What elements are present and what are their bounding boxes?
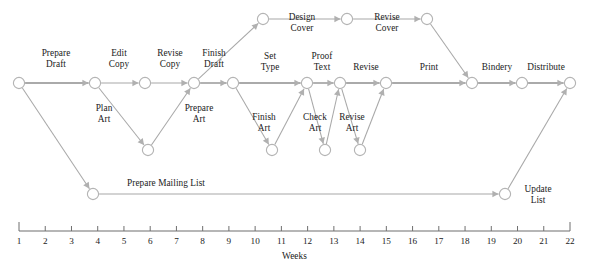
edge-n_settype-to-n_prooftext (239, 80, 301, 87)
axis-tick-label-1: 1 (8, 236, 30, 246)
arrow-head-icon (327, 80, 333, 87)
edge-n_revisecopy-to-n_finishdraft (151, 80, 188, 87)
arrow-head-icon (557, 80, 563, 87)
edge-n_revise-to-n_print (346, 80, 380, 87)
edge-n_revise-to-n_reviseart (342, 89, 360, 144)
axis-tick-label-5: 5 (113, 236, 135, 246)
node-n_update[interactable] (499, 188, 510, 199)
edge-n_finishdraft-to-n_settype (200, 80, 227, 87)
axis-tick-label-15: 15 (375, 236, 397, 246)
edge-n_distribute-to-n_end (528, 80, 564, 87)
node-n_designcover[interactable] (257, 13, 268, 24)
arrow-head-icon (132, 80, 138, 87)
arrow-head-icon (294, 80, 300, 87)
axis-tick-label-7: 7 (165, 236, 187, 246)
axis-tick-label-20: 20 (507, 236, 529, 246)
edge-n_start-to-n_editcopy (25, 80, 89, 87)
network-graphics (0, 0, 589, 274)
node-n_distribute[interactable] (516, 77, 527, 88)
node-n_settype[interactable] (227, 77, 238, 88)
arrow-head-icon (184, 88, 190, 95)
edge-n_settype-to-n_prepart (236, 88, 269, 144)
edge-n_start-to-n_mailing (22, 88, 89, 189)
edge-n_prooftext-to-n_checkart (309, 89, 325, 144)
edge-n_print-to-n_bindery (392, 80, 466, 87)
axis-tick-label-19: 19 (480, 236, 502, 246)
edge-n_revisecover-to-n_covertop (353, 16, 421, 23)
edge-line (99, 88, 144, 145)
axis-tick-label-2: 2 (34, 236, 56, 246)
arrow-head-icon (334, 16, 340, 23)
axis-tick-label-6: 6 (139, 236, 161, 246)
axis-tick-label-8: 8 (192, 236, 214, 246)
node-n_revisecover[interactable] (341, 13, 352, 24)
axis-tick-label-18: 18 (454, 236, 476, 246)
edge-line (309, 89, 324, 144)
arrow-head-icon (82, 80, 88, 87)
edge-n_covertop-to-n_bindery (431, 24, 469, 78)
node-n_editcopy[interactable] (89, 77, 100, 88)
edge-n_prepart-to-n_prooftext (275, 89, 304, 145)
pert-diagram-canvas: Prepare DraftEdit CopyRevise CopyFinish … (0, 0, 589, 274)
edge-n_finishdraft-to-n_designcover (198, 23, 258, 79)
node-n_mailing[interactable] (87, 188, 98, 199)
node-n_revisecopy[interactable] (139, 77, 150, 88)
edge-n_bindery-to-n_distribute (478, 80, 515, 87)
edges-layer (22, 16, 566, 198)
arrow-head-icon (319, 137, 325, 144)
axis-tick-label-14: 14 (349, 236, 371, 246)
node-n_finishdraft[interactable] (188, 77, 199, 88)
node-n_bindery[interactable] (466, 77, 477, 88)
node-n_end[interactable] (564, 77, 575, 88)
arrow-head-icon (492, 191, 498, 198)
axis-tick-label-9: 9 (218, 236, 240, 246)
axis-title: Weeks (260, 251, 330, 261)
edge-line (362, 89, 383, 144)
arrow-head-icon (220, 80, 226, 87)
node-n_checkart[interactable] (319, 144, 330, 155)
node-n_prooftext[interactable] (301, 77, 312, 88)
edge-n_planart-to-n_finishdraft (151, 88, 190, 145)
node-n_prepart[interactable] (266, 144, 277, 155)
node-n_covertop[interactable] (421, 13, 432, 24)
axis-tick-label-11: 11 (270, 236, 292, 246)
axis-tick-label-12: 12 (297, 236, 319, 246)
arrow-head-icon (462, 71, 468, 78)
edge-line (236, 88, 269, 144)
axis-tick-label-3: 3 (60, 236, 82, 246)
time-axis (19, 222, 570, 231)
node-n_revise[interactable] (334, 77, 345, 88)
edge-n_mailing-to-n_update (99, 191, 499, 198)
axis-tick-label-10: 10 (244, 236, 266, 246)
edge-line (326, 89, 338, 144)
arrow-head-icon (353, 137, 359, 144)
arrow-head-icon (334, 89, 340, 96)
node-n_reviseart[interactable] (354, 144, 365, 155)
edge-line (151, 88, 190, 145)
arrow-head-icon (509, 80, 515, 87)
axis-tick-label-22: 22 (559, 236, 581, 246)
edge-n_update-to-n_end (508, 89, 567, 189)
arrow-head-icon (181, 80, 187, 87)
edge-line (342, 89, 358, 144)
axis-tick-label-17: 17 (428, 236, 450, 246)
edge-line (22, 88, 89, 189)
arrow-head-icon (138, 138, 144, 145)
arrow-head-icon (414, 16, 420, 23)
edge-n_designcover-to-n_revisecover (269, 16, 341, 23)
node-n_start[interactable] (13, 77, 24, 88)
node-n_print[interactable] (380, 77, 391, 88)
edge-line (275, 89, 304, 145)
edge-n_editcopy-to-n_revisecopy (101, 80, 139, 87)
arrow-head-icon (459, 80, 465, 87)
edge-n_editcopy-to-n_planart (99, 88, 144, 145)
node-n_planart[interactable] (142, 144, 153, 155)
edge-n_prooftext-to-n_revise (313, 80, 334, 87)
arrow-head-icon (83, 182, 89, 189)
arrow-head-icon (373, 80, 379, 87)
axis-tick-label-16: 16 (402, 236, 424, 246)
edge-line (431, 24, 469, 78)
axis-tick-label-13: 13 (323, 236, 345, 246)
edge-line (508, 89, 567, 189)
axis-tick-label-21: 21 (533, 236, 555, 246)
